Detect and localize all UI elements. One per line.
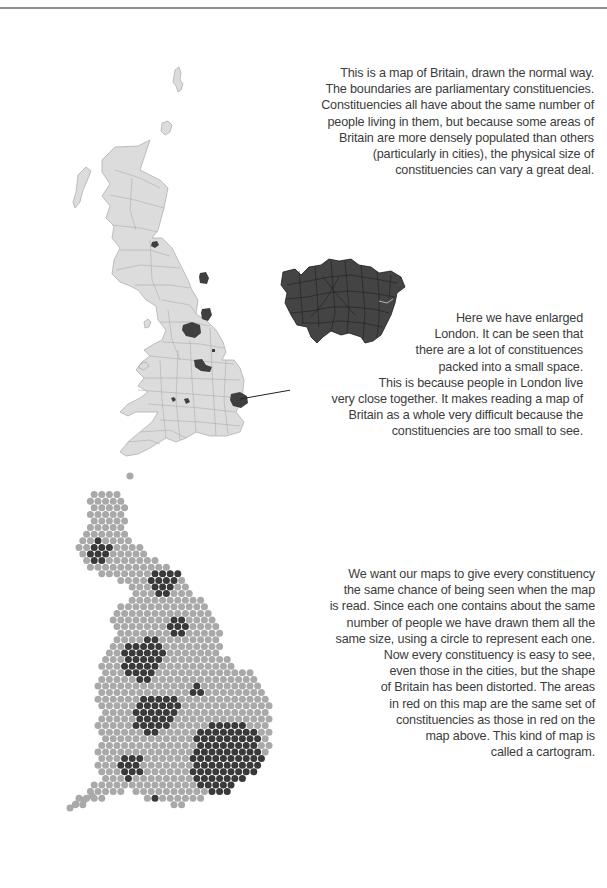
constituency-dot (155, 762, 162, 769)
constituency-dot-highlighted (224, 749, 231, 756)
text-line: people living in them, but because some … (321, 114, 594, 130)
constituency-dot (220, 702, 227, 709)
constituency-dot (148, 564, 155, 571)
constituency-dot (174, 689, 181, 696)
constituency-dot-highlighted (250, 742, 257, 749)
constituency-dot (163, 683, 170, 690)
london-description: Here we have enlargedLondon. It can be s… (332, 310, 583, 440)
constituency-dot (235, 716, 242, 723)
constituency-dot (110, 524, 117, 531)
constituency-dot (87, 498, 94, 505)
text-line: packed into a small space. (332, 359, 583, 375)
constituency-dot (193, 709, 200, 716)
constituency-dot-highlighted (231, 722, 238, 729)
constituency-dot (125, 709, 132, 716)
constituency-dot (190, 650, 197, 657)
constituency-dot (239, 683, 246, 690)
constituency-dot-highlighted (91, 544, 98, 551)
constituency-dot (133, 564, 140, 571)
constituency-dot (110, 498, 117, 505)
constituency-dot (152, 689, 159, 696)
constituency-dot (110, 775, 117, 782)
constituency-dot (205, 650, 212, 657)
constituency-dot (243, 716, 250, 723)
constituency-dot (121, 729, 128, 736)
constituency-dot (106, 570, 113, 577)
constituency-dot (171, 749, 178, 756)
text-line: constituencies as those in red on the (330, 712, 595, 728)
london-callout-line (240, 348, 290, 399)
constituency-dot (140, 735, 147, 742)
constituency-dot-highlighted (197, 742, 204, 749)
text-line: London. It can be seen that (332, 326, 583, 342)
constituency-dot (121, 636, 128, 643)
constituency-dot-highlighted (133, 643, 140, 650)
constituency-dot (129, 716, 136, 723)
constituency-dot (159, 610, 166, 617)
constituency-dot (102, 735, 109, 742)
constituency-dot (129, 729, 136, 736)
constituency-dot-highlighted (98, 557, 105, 564)
constituency-dot (136, 729, 143, 736)
constituency-dot-highlighted (152, 636, 159, 643)
constituency-dot (140, 762, 147, 769)
constituency-dot (95, 683, 102, 690)
constituency-dot (114, 491, 121, 498)
constituency-dot (182, 702, 189, 709)
constituency-dot (106, 782, 113, 789)
constituency-dot (266, 702, 273, 709)
constituency-dot (140, 564, 147, 571)
constituency-dot (110, 722, 117, 729)
constituency-dot-highlighted (155, 590, 162, 597)
constituency-dot (114, 504, 121, 511)
constituency-dot (129, 742, 136, 749)
constituency-dot (133, 775, 140, 782)
constituency-dot-highlighted (163, 577, 170, 584)
constituency-dot (201, 709, 208, 716)
constituency-dot (205, 676, 212, 683)
constituency-dot (163, 643, 170, 650)
constituency-dot (102, 537, 109, 544)
constituency-dot (174, 729, 181, 736)
constituency-dot-highlighted (216, 788, 223, 795)
constituency-dot-highlighted (159, 570, 166, 577)
constituency-dot (83, 531, 90, 538)
constituency-dot (228, 702, 235, 709)
constituency-dot (114, 663, 121, 670)
constituency-dot (159, 729, 166, 736)
constituency-dot (148, 762, 155, 769)
constituency-dot-highlighted (148, 669, 155, 676)
constituency-dot (209, 656, 216, 663)
constituency-dot (266, 729, 273, 736)
constituency-dot (117, 630, 124, 637)
constituency-dot (133, 551, 140, 558)
constituency-dot-highlighted (136, 676, 143, 683)
constituency-dot (144, 584, 151, 591)
constituency-dot (114, 755, 121, 762)
constituency-dot (186, 669, 193, 676)
constituency-dot (182, 742, 189, 749)
nottingham-highlight (212, 349, 215, 352)
constituency-dot (209, 696, 216, 703)
constituency-dot (114, 689, 121, 696)
constituency-dot (171, 603, 178, 610)
constituency-dot-highlighted (254, 735, 261, 742)
constituency-dot (148, 775, 155, 782)
text-line: Now every constituency is easy to see, (330, 647, 595, 663)
constituency-dot (171, 762, 178, 769)
constituency-dot (186, 709, 193, 716)
constituency-dot (190, 782, 197, 789)
constituency-dot-highlighted (174, 623, 181, 630)
orkney-shape (161, 121, 172, 135)
constituency-dot (174, 584, 181, 591)
constituency-dot (129, 557, 136, 564)
constituency-dot-highlighted (231, 775, 238, 782)
constituency-dot (186, 762, 193, 769)
constituency-dot (190, 663, 197, 670)
constituency-dot (95, 749, 102, 756)
constituency-dot (95, 788, 102, 795)
constituency-dot-highlighted (148, 577, 155, 584)
constituency-dot (216, 669, 223, 676)
constituency-dot (133, 683, 140, 690)
constituency-dot (133, 617, 140, 624)
